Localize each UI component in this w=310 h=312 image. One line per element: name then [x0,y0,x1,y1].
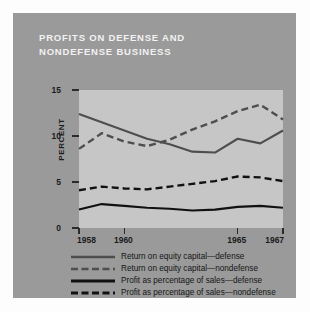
x-axis-tick-label: 1958 [77,235,96,245]
x-axis-tick-label: 1967 [265,235,284,245]
legend-swatch-equity-nondefense [71,267,115,271]
x-axis-tick-label: 1965 [227,235,246,245]
y-axis-tick-mark [72,135,79,137]
x-axis-tick-label: 1960 [114,235,133,245]
legend-item[interactable]: Return on equity capital—nondefense [71,263,296,275]
chart-legend: Return on equity capital—defenseReturn o… [71,251,296,298]
chart-card: PROFITS ON DEFENSE AND NONDEFENSE BUSINE… [13,13,296,298]
y-axis-tick-mark [72,89,79,91]
x-axis-tick-mark [78,228,80,234]
page-title: PROFITS ON DEFENSE AND NONDEFENSE BUSINE… [39,31,269,59]
legend-swatch-sales-nondefense [71,291,115,295]
page-title-line-2: NONDEFENSE BUSINESS [39,45,269,59]
legend-item-label: Return on equity capital—nondefense [121,263,258,275]
x-axis-tick-mark [282,228,284,234]
y-axis-tick-label: 10 [21,132,61,140]
legend-swatch-equity-defense [71,255,115,259]
legend-item[interactable]: Profit as percentage of sales—defense [71,275,296,287]
legend-item[interactable]: Profit as percentage of sales—nondefense [71,287,296,298]
y-axis-tick-mark [72,181,79,183]
series-line-1 [79,114,283,153]
y-axis-label: PERCENT [57,118,66,160]
legend-item-label: Return on equity capital—defense [121,251,244,263]
y-axis-tick-label: 5 [21,178,61,186]
x-axis-tick-mark [237,228,239,234]
line-chart: 051015 PERCENT 1958196019651967 [66,77,283,228]
page-title-line-1: PROFITS ON DEFENSE AND [39,31,269,45]
legend-item-label: Profit as percentage of sales—defense [121,275,262,287]
y-axis-tick-label: 0 [21,224,61,232]
plot-series-layer [79,90,283,228]
page: PROFITS ON DEFENSE AND NONDEFENSE BUSINE… [0,0,310,312]
series-line-4 [79,176,283,190]
legend-swatch-sales-defense [71,279,115,283]
series-line-3 [79,204,283,210]
legend-item-label: Profit as percentage of sales—nondefense [121,287,276,298]
legend-item[interactable]: Return on equity capital—defense [71,251,296,263]
x-axis-tick-mark [124,228,126,234]
y-axis-tick-label: 15 [21,86,61,94]
